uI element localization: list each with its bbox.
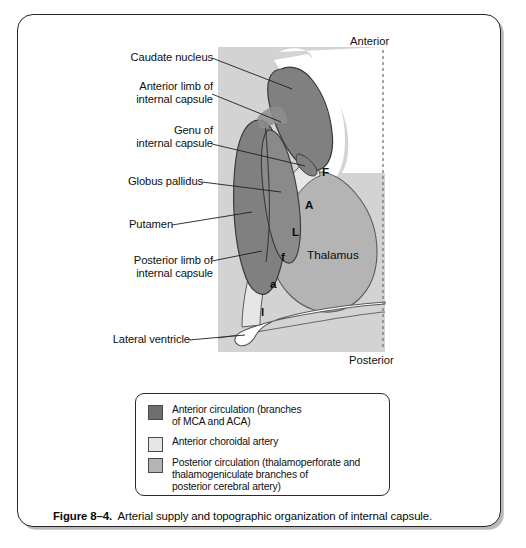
label-lateral-ventricle: Lateral ventricle <box>21 333 190 346</box>
orientation-anterior: Anterior <box>350 35 389 47</box>
figure-stage: Caudate nucleus Anterior limb of interna… <box>17 14 501 527</box>
legend-box: Anterior circulation (branches of MCA an… <box>135 393 390 496</box>
somatotopic-label-arm-lower: a <box>270 277 276 290</box>
legend-label-anterior-choroidal-artery: Anterior choroidal artery <box>172 436 278 448</box>
orientation-posterior: Posterior <box>349 354 394 366</box>
legend-item-anterior-circulation: Anterior circulation (branches of MCA an… <box>148 404 380 428</box>
label-globus-pallidus: Globus pallidus <box>21 175 203 188</box>
label-putamen: Putamen <box>21 218 173 231</box>
legend-label-posterior-circulation: Posterior circulation (thalamoperforate … <box>172 457 360 493</box>
figure-caption: Figure 8–4. Arterial supply and topograp… <box>53 510 483 522</box>
label-caudate-nucleus: Caudate nucleus <box>21 51 213 64</box>
label-posterior-limb: Posterior limb of internal capsule <box>21 254 213 280</box>
somatotopic-label-face-lower: f <box>281 250 285 263</box>
legend-item-anterior-choroidal-artery: Anterior choroidal artery <box>148 436 380 452</box>
somatotopic-label-face-genu: F <box>322 165 329 178</box>
somatotopic-label-leg-lower: l <box>261 305 264 318</box>
figure-caption-text: Arterial supply and topographic organiza… <box>118 510 433 522</box>
figure-root: Caudate nucleus Anterior limb of interna… <box>0 0 526 548</box>
figure-caption-number: Figure 8–4. <box>53 510 112 522</box>
label-thalamus: Thalamus <box>307 248 359 262</box>
legend-swatch-anterior-choroidal-artery <box>148 437 163 452</box>
somatotopic-label-arm: A <box>305 198 313 211</box>
legend-item-posterior-circulation: Posterior circulation (thalamoperforate … <box>148 457 384 493</box>
legend-swatch-posterior-circulation <box>148 458 163 473</box>
label-genu: Genu of internal capsule <box>21 124 213 150</box>
label-anterior-limb: Anterior limb of internal capsule <box>21 80 213 106</box>
legend-swatch-anterior-circulation <box>148 405 163 420</box>
somatotopic-label-leg: L <box>292 225 299 238</box>
legend-label-anterior-circulation: Anterior circulation (branches of MCA an… <box>172 404 301 428</box>
